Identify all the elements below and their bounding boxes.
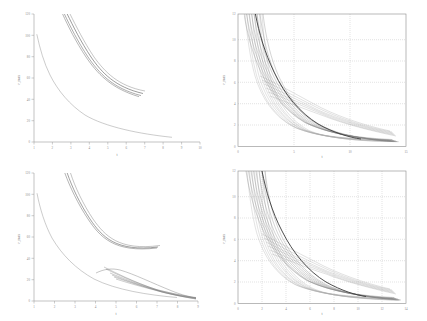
xtick-label: 8 — [177, 305, 179, 309]
xtick-label: 0 — [237, 306, 239, 310]
xticks-bottom-left: 1 2 3 4 5 6 7 8 9 — [33, 301, 199, 309]
xtick-label: 1 — [33, 305, 35, 309]
curve-upper-c — [67, 14, 143, 94]
ytick-label: 120 — [25, 12, 30, 16]
xtick-label: 8 — [162, 146, 164, 150]
ytick-label: 12 — [232, 169, 236, 173]
yticks-top-right: 0 2 4 6 8 10 12 — [232, 12, 236, 148]
yaxis-label: v_max — [222, 233, 226, 243]
ytick-label: 40 — [27, 98, 31, 102]
xtick-label: 3 — [74, 305, 76, 309]
xtick-label: 1 — [33, 146, 35, 150]
ytick-label: 6 — [233, 81, 235, 85]
axes-bottom-left — [34, 173, 198, 301]
ytick-label: 20 — [27, 277, 31, 281]
xticks-top-right: 0 5 10 15 — [237, 150, 408, 154]
plot-bottom-left: 0 20 40 60 80 100 120 1 2 3 — [0, 161, 213, 321]
panel-bottom-right: 0 2 4 6 8 10 12 0 2 4 6 8 10 12 14 t v_m… — [214, 161, 427, 321]
ytick-label: 12 — [232, 12, 236, 16]
xticks-bottom-right: 0 2 4 6 8 10 12 14 — [237, 306, 408, 310]
ytick-label: 8 — [233, 216, 235, 220]
xtick-label: 2 — [52, 146, 54, 150]
ytick-label: 120 — [25, 171, 30, 175]
xtick-label: 2 — [261, 306, 263, 310]
ytick-label: 4 — [233, 258, 235, 262]
yticks-bottom-left: 0 20 40 60 80 100 120 — [25, 171, 34, 303]
xtick-label: 12 — [380, 306, 384, 310]
xtick-label: 8 — [333, 306, 335, 310]
plot-top-right: 0 2 4 6 8 10 12 0 5 10 15 t v_max — [214, 0, 427, 160]
xtick-label: 3 — [70, 146, 72, 150]
xtick-label: 15 — [404, 150, 408, 154]
xtick-label: 6 — [136, 305, 138, 309]
xtick-label: 9 — [181, 146, 183, 150]
xaxis-label: t — [116, 153, 118, 157]
ytick-label: 100 — [25, 192, 30, 196]
curve-upper-b — [64, 14, 141, 96]
axes-top-left — [34, 14, 200, 142]
xtick-label: 6 — [309, 306, 311, 310]
ytick-label: 0 — [28, 140, 30, 144]
ytick-label: 60 — [27, 76, 31, 80]
ytick-label: 40 — [27, 256, 31, 260]
ytick-label: 6 — [233, 237, 235, 241]
xtick-label: 0 — [237, 150, 239, 154]
xtick-label: 7 — [156, 305, 158, 309]
ytick-label: 4 — [233, 102, 235, 106]
yticks-bottom-right: 0 2 4 6 8 10 12 — [232, 169, 236, 305]
ytick-label: 8 — [233, 59, 235, 63]
panel-top-right: 0 2 4 6 8 10 12 0 5 10 15 t v_max — [214, 0, 427, 160]
curve-family-top-right — [244, 14, 399, 142]
curve-lower-branch — [37, 34, 172, 137]
curve-lower-branch — [37, 193, 177, 297]
ytick-label: 100 — [25, 34, 30, 38]
xtick-label: 10 — [198, 146, 202, 150]
ytick-label: 0 — [28, 299, 30, 303]
xtick-label: 4 — [89, 146, 91, 150]
xaxis-label: t — [115, 312, 117, 316]
xtick-label: 5 — [293, 150, 295, 154]
xtick-label: 2 — [54, 305, 56, 309]
plot-top-left: 0 20 40 60 80 100 120 1 2 — [0, 0, 213, 160]
ytick-label: 2 — [233, 123, 235, 127]
xtick-label: 7 — [144, 146, 146, 150]
ytick-label: 0 — [233, 145, 235, 149]
ytick-label: 10 — [232, 38, 236, 42]
curves-bottom-left — [37, 173, 196, 299]
xtick-label: 5 — [115, 305, 117, 309]
yaxis-label: v_max — [17, 233, 21, 243]
ytick-label: 10 — [232, 194, 236, 198]
curve-upper-b — [67, 173, 158, 248]
yticks-top-left: 0 20 40 60 80 100 120 — [25, 12, 34, 144]
xaxis-label: t — [321, 155, 323, 159]
xtick-label: 14 — [404, 306, 408, 310]
yaxis-label: v_max — [222, 75, 226, 85]
ytick-label: 80 — [27, 213, 31, 217]
panel-top-left: 0 20 40 60 80 100 120 1 2 — [0, 0, 213, 160]
xticks-top-left: 1 2 3 4 5 6 7 8 9 10 — [33, 142, 202, 150]
xtick-label: 9 — [197, 305, 199, 309]
curves-top-left — [37, 14, 172, 137]
ytick-label: 20 — [27, 119, 31, 123]
ytick-label: 0 — [233, 301, 235, 305]
xtick-label: 10 — [356, 306, 360, 310]
dark-envelope-curve — [262, 171, 366, 297]
curve-upper-a — [65, 173, 157, 249]
xtick-label: 10 — [348, 150, 352, 154]
xtick-label: 5 — [107, 146, 109, 150]
xtick-label: 4 — [285, 306, 287, 310]
yaxis-label: v_max — [17, 75, 21, 85]
figure-grid: 0 20 40 60 80 100 120 1 2 — [0, 0, 427, 321]
ytick-label: 60 — [27, 235, 31, 239]
plot-bottom-right: 0 2 4 6 8 10 12 0 2 4 6 8 10 12 14 t v_m… — [214, 161, 427, 321]
curve-upper-a — [63, 14, 139, 97]
ytick-label: 2 — [233, 280, 235, 284]
xtick-label: 4 — [95, 305, 97, 309]
ytick-label: 80 — [27, 55, 31, 59]
curve-family-bottom-right — [246, 171, 401, 301]
xaxis-label: t — [321, 312, 323, 316]
panel-bottom-left: 0 20 40 60 80 100 120 1 2 3 — [0, 161, 213, 321]
xtick-label: 6 — [125, 146, 127, 150]
